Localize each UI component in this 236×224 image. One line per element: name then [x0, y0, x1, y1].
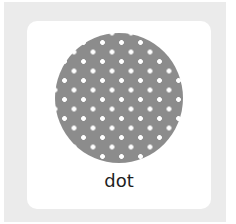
pattern-label: dot — [27, 170, 211, 191]
dot-pattern-swatch-icon — [55, 33, 183, 163]
tile-frame: dot — [4, 2, 226, 222]
pattern-card[interactable]: dot — [27, 21, 211, 209]
